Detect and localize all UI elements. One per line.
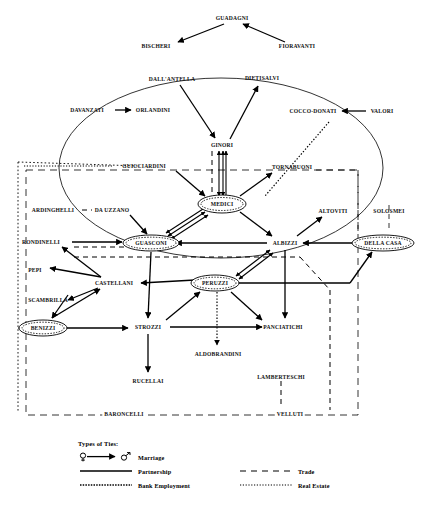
node-ardinghelli[interactable]: ARDINGHELLI (32, 207, 74, 214)
node-lamberteschi[interactable]: LAMBERTESCHI (257, 374, 305, 381)
node-albizzi[interactable]: ALBIZZI (273, 240, 298, 247)
node-velluti[interactable]: VELLUTI (275, 411, 305, 418)
node-rondinelli[interactable]: RONDINELLI (22, 239, 60, 246)
bank-employment-key-icon (78, 480, 134, 490)
node-baroncelli[interactable]: BARONCELLI (102, 411, 145, 418)
node-dall-antella[interactable]: DALL'ANTELLA (149, 76, 195, 83)
node-dietisalvi[interactable]: DIETISALVI (245, 75, 279, 82)
node-peruzzi[interactable]: PERUZZI (202, 280, 228, 287)
node-panciatichi[interactable]: PANCIATICHI (263, 324, 302, 331)
node-da-uzzano[interactable]: DA UZZANO (95, 207, 130, 214)
legend-row-marriage: Marriage (78, 452, 398, 462)
edges-bank-employment (217, 122, 329, 345)
legend-title: Types of Ties: (78, 440, 398, 447)
node-solosmei[interactable]: SOLOSMEI (373, 208, 404, 215)
node-guasconi[interactable]: GUASCONI (135, 240, 167, 247)
node-guadagni[interactable]: GUADAGNI (216, 15, 249, 22)
legend-label-partnership: Partnership (138, 468, 171, 475)
partnership-key-icon (78, 466, 134, 476)
node-medici[interactable]: MEDICI (211, 201, 234, 208)
legend-label-trade: Trade (298, 468, 314, 475)
node-guicciardini[interactable]: GUICCIARDINI (122, 163, 166, 170)
boundary-shapes (18, 78, 389, 415)
node-altoviti[interactable]: ALTOVITI (319, 208, 348, 215)
node-fioravanti[interactable]: FIORAVANTI (279, 43, 315, 50)
node-pepi[interactable]: PEPI (28, 267, 41, 274)
network-edges-layer (0, 0, 424, 505)
node-cocco-donati[interactable]: COCCO-DONATI (290, 108, 337, 115)
node-tornabuoni[interactable]: TORNABUONI (272, 164, 312, 171)
node-orlandini[interactable]: ORLANDINI (136, 107, 170, 114)
node-valori[interactable]: VALORI (371, 108, 394, 115)
marriage-key-icon (78, 452, 134, 462)
node-davanzati[interactable]: DAVANZATI (70, 107, 104, 114)
node-strozzi[interactable]: STROZZI (135, 324, 161, 331)
node-aldobrandini[interactable]: ALDOBRANDINI (195, 351, 242, 358)
trade-key-icon (238, 466, 294, 476)
legend-label-bank-employment: Bank Employment (138, 482, 190, 489)
node-bischeri[interactable]: BISCHERI (142, 43, 171, 50)
edges-partnership (63, 151, 372, 328)
node-rucellai[interactable]: RUCELLAI (133, 378, 164, 385)
legend: Types of Ties: Marriage (78, 440, 398, 494)
network-diagram-figure: GUADAGNI BISCHERI FIORAVANTI DALL'ANTELL… (0, 0, 424, 505)
node-ginori[interactable]: GINORI (211, 142, 233, 149)
legend-label-marriage: Marriage (138, 454, 164, 461)
real-estate-key-icon (238, 480, 294, 490)
legend-row-bank-realestate: Bank Employment Real Estate (78, 480, 398, 490)
legend-row-partnership-trade: Partnership Trade (78, 466, 398, 476)
node-benizzi[interactable]: BENIZZI (31, 325, 56, 332)
legend-label-real-estate: Real Estate (298, 482, 330, 489)
node-scambrilla[interactable]: SCAMBRILLA (28, 297, 68, 304)
node-castellani[interactable]: CASTELLANI (95, 280, 133, 287)
node-della-casa[interactable]: DELLA CASA (364, 240, 401, 247)
